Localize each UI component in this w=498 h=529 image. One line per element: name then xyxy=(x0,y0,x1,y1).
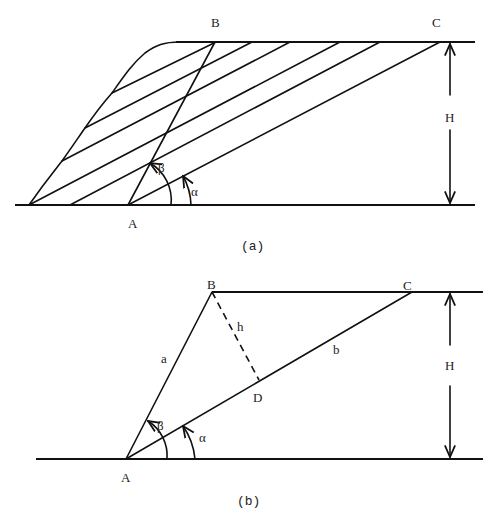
side-b-label: b xyxy=(333,342,340,357)
point-C-label-a: C xyxy=(432,15,441,30)
beta-label-a: β xyxy=(158,160,165,175)
point-B-label-b: B xyxy=(207,277,216,292)
point-A-label-a: A xyxy=(128,216,138,231)
parallel-plane-4 xyxy=(85,42,252,128)
parallel-plane-2 xyxy=(70,42,380,205)
alpha-angle-arc-b xyxy=(183,426,195,459)
alpha-label-b: α xyxy=(199,430,206,445)
height-h-dashed xyxy=(212,292,259,380)
natural-slope-curve xyxy=(29,42,215,205)
alpha-label-a: α xyxy=(191,184,198,199)
height-label-a: H xyxy=(445,110,454,125)
point-B-label-a: B xyxy=(211,15,220,30)
slope-line-AB xyxy=(128,42,215,205)
point-C-label-b: C xyxy=(403,278,412,293)
height-label-b: H xyxy=(445,358,454,373)
parallel-plane-3 xyxy=(62,42,290,161)
diagram-a: β α H B C A (a) xyxy=(15,15,475,254)
caption-b: (b) xyxy=(237,494,260,509)
side-a-label: a xyxy=(161,351,167,366)
alpha-angle-arc-a xyxy=(183,176,191,205)
height-h-label: h xyxy=(237,319,244,334)
point-D-label-b: D xyxy=(253,390,262,405)
caption-a: (a) xyxy=(241,239,264,254)
parallel-plane-5 xyxy=(112,42,216,93)
slope-stability-figure: β α H B C A (a) β α H B C A D a b h ( xyxy=(0,0,498,529)
diagram-b: β α H B C A D a b h (b) xyxy=(36,277,483,509)
beta-label-b: β xyxy=(157,418,164,433)
plane-line-AC xyxy=(128,42,440,205)
point-A-label-b: A xyxy=(121,470,131,485)
